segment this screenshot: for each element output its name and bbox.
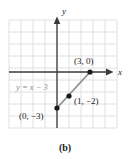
graph-figure: y x y = x − 3 (3, 0) (1, −2) (0, −3) (b) [0,0,130,159]
y-axis-label: y [61,6,66,16]
x-axis-label: x [117,67,122,77]
data-point [54,105,59,110]
data-point [66,93,71,98]
equation-label: y = x − 3 [15,82,48,92]
x-axis [9,69,114,76]
figure-caption: (b) [0,136,130,159]
point-label-3-0: (3, 0) [74,56,94,66]
point-label-1-neg2: (1, −2) [74,96,99,106]
point-label-0-neg3: (0, −3) [19,111,44,121]
data-point [87,69,92,74]
coordinate-plane-graph: y x y = x − 3 (3, 0) (1, −2) (0, −3) [0,0,130,136]
